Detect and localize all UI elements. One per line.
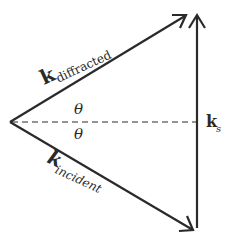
k-incident-label: k incident: [42, 145, 110, 196]
k-s-arrow: [189, 15, 205, 228]
k-s-label: k s: [206, 112, 221, 134]
k-incident-arrow: [10, 122, 193, 231]
scattering-vector-diagram: k diffracted k incident k s θ θ: [0, 0, 230, 244]
theta-lower-label: θ: [74, 125, 83, 143]
svg-text:s: s: [216, 123, 221, 134]
theta-upper-label: θ: [74, 100, 83, 118]
svg-text:diffracted: diffracted: [54, 48, 114, 86]
svg-text:incident: incident: [53, 163, 104, 197]
diagram-svg: k diffracted k incident k s θ θ: [0, 0, 230, 244]
